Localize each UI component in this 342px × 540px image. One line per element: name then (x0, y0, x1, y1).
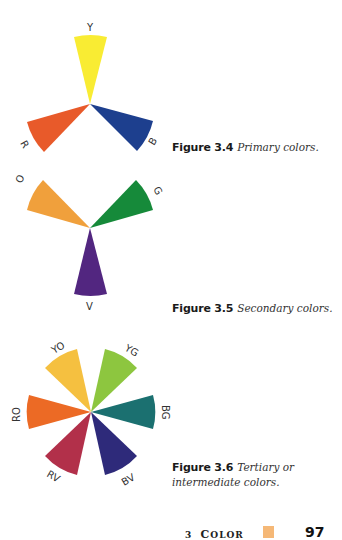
wedge-violet (74, 228, 107, 296)
chapter-number: 3 (185, 530, 192, 540)
figure-tertiary-colors: YG BG BV RV RO YO (0, 330, 180, 495)
wedge-red (27, 104, 90, 152)
label-y: Y (86, 22, 94, 33)
page-number: 97 (305, 524, 324, 540)
label-ro: RO (11, 407, 22, 422)
chapter-title-rest: OLOR (210, 530, 244, 540)
figure-caption-text: Primary colors. (237, 141, 319, 153)
wedge-orange (27, 180, 90, 228)
chapter-title-initial: C (201, 528, 211, 540)
tertiary-color-wheel: YG BG BV RV RO YO (0, 330, 180, 495)
figure-primary-colors: Y B R (0, 0, 170, 170)
figure-number: Figure 3.5 (172, 302, 233, 315)
label-o: O (13, 173, 27, 185)
chapter-color-swatch (263, 526, 274, 538)
label-rv: RV (45, 468, 62, 484)
figure-number: Figure 3.6 (172, 461, 233, 474)
running-footer-chapter: 3 COLOR (185, 528, 244, 540)
label-bv: BV (120, 471, 137, 487)
caption-figure-3-4: Figure 3.4Primary colors. (172, 140, 319, 155)
label-yg: YG (122, 342, 140, 359)
caption-figure-3-5: Figure 3.5Secondary colors. (172, 301, 332, 316)
wedge-yellow (74, 35, 107, 104)
label-v: V (86, 301, 93, 312)
caption-figure-3-6: Figure 3.6Tertiary or intermediate color… (172, 460, 332, 489)
wedge-blue (90, 104, 153, 151)
figure-caption-text: Secondary colors. (237, 302, 332, 314)
secondary-color-fan: G V O (0, 160, 170, 320)
page-footer: 3 COLOR 97 (0, 524, 342, 540)
label-b: B (146, 135, 159, 147)
label-r: R (18, 139, 31, 151)
wedge-green (90, 180, 153, 228)
figure-secondary-colors: G V O (0, 160, 170, 320)
label-yo: YO (49, 339, 67, 356)
primary-color-fan: Y B R (0, 0, 170, 170)
figure-number: Figure 3.4 (172, 141, 233, 154)
label-bg: BG (160, 405, 171, 419)
label-g: G (151, 185, 164, 197)
